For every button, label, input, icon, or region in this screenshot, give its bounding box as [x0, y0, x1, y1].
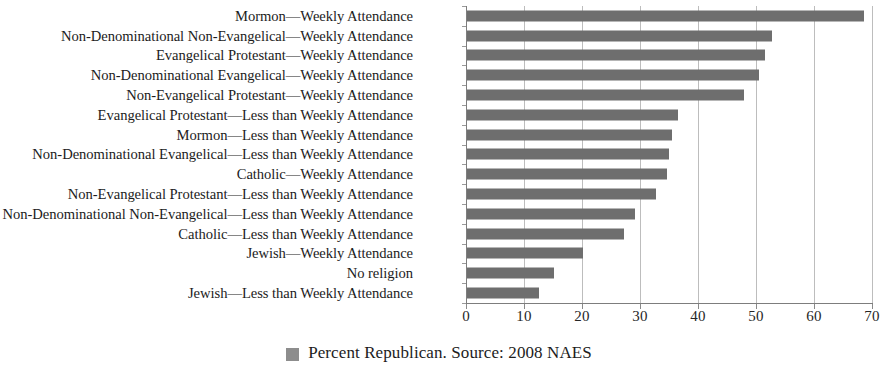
- bar-row: Catholic—Weekly Attendance: [0, 164, 878, 184]
- category-label: Evangelical Protestant—Less than Weekly …: [98, 107, 413, 122]
- category-label: Non-Evangelical Protestant—Less than Wee…: [68, 187, 413, 202]
- bar: [467, 109, 678, 120]
- bar: [467, 288, 539, 299]
- category-label: Mormon—Less than Weekly Attendance: [177, 127, 413, 142]
- bar: [467, 208, 635, 219]
- bar-row: Non-Denominational Evangelical—Weekly At…: [0, 65, 878, 85]
- bar: [467, 149, 669, 160]
- bar: [467, 248, 583, 259]
- bar-row: Catholic—Less than Weekly Attendance: [0, 224, 878, 244]
- x-tick-label-60: 60: [794, 308, 834, 325]
- x-tick-label-0: 0: [446, 308, 486, 325]
- bar-row: Non-Evangelical Protestant—Less than Wee…: [0, 184, 878, 204]
- bar-row: Non-Denominational Evangelical—Less than…: [0, 145, 878, 165]
- bar: [467, 189, 656, 200]
- bar-row: Non-Denominational Non-Evangelical—Weekl…: [0, 26, 878, 46]
- bar: [467, 70, 759, 81]
- category-label: Catholic—Less than Weekly Attendance: [178, 226, 413, 241]
- category-label: Jewish—Weekly Attendance: [246, 246, 413, 261]
- category-label: Non-Denominational Non-Evangelical—Less …: [3, 206, 413, 221]
- bar-row: Jewish—Less than Weekly Attendance: [0, 283, 878, 303]
- bar-row: Non-Evangelical Protestant—Weekly Attend…: [0, 85, 878, 105]
- x-tick-label-10: 10: [504, 308, 544, 325]
- bar: [467, 30, 772, 41]
- x-tick-label-20: 20: [562, 308, 602, 325]
- bar: [467, 169, 667, 180]
- bar: [467, 268, 554, 279]
- legend-swatch-icon: [286, 348, 299, 361]
- category-label: Non-Denominational Evangelical—Less than…: [32, 147, 413, 162]
- legend-label: Percent Republican. Source: 2008 NAES: [308, 343, 592, 363]
- bar-row: Mormon—Weekly Attendance: [0, 6, 878, 26]
- x-tick-label-50: 50: [736, 308, 776, 325]
- bar-row: Evangelical Protestant—Weekly Attendance: [0, 46, 878, 66]
- bar: [467, 90, 744, 101]
- bar: [467, 10, 864, 21]
- bar-row: Evangelical Protestant—Less than Weekly …: [0, 105, 878, 125]
- category-label: Non-Evangelical Protestant—Weekly Attend…: [126, 88, 413, 103]
- bar-row: Jewish—Weekly Attendance: [0, 244, 878, 264]
- chart-legend: Percent Republican. Source: 2008 NAES: [0, 343, 878, 363]
- y-tickmark: [462, 303, 466, 304]
- category-label: Non-Denominational Non-Evangelical—Weekl…: [61, 28, 413, 43]
- category-label: No religion: [347, 266, 413, 281]
- category-label: Evangelical Protestant—Weekly Attendance: [156, 48, 413, 63]
- x-tick-label-30: 30: [620, 308, 660, 325]
- category-label: Catholic—Weekly Attendance: [237, 167, 413, 182]
- x-tick-label-40: 40: [678, 308, 718, 325]
- bar: [467, 129, 672, 140]
- bar-row: Non-Denominational Non-Evangelical—Less …: [0, 204, 878, 224]
- bar-row: Mormon—Less than Weekly Attendance: [0, 125, 878, 145]
- bar: [467, 228, 624, 239]
- x-tick-label-70: 70: [852, 308, 884, 325]
- x-axis-line: [466, 303, 873, 304]
- bar: [467, 50, 765, 61]
- category-label: Jewish—Less than Weekly Attendance: [188, 286, 413, 301]
- category-label: Mormon—Weekly Attendance: [235, 8, 413, 23]
- category-label: Non-Denominational Evangelical—Weekly At…: [91, 68, 413, 83]
- bar-row: No religion: [0, 263, 878, 283]
